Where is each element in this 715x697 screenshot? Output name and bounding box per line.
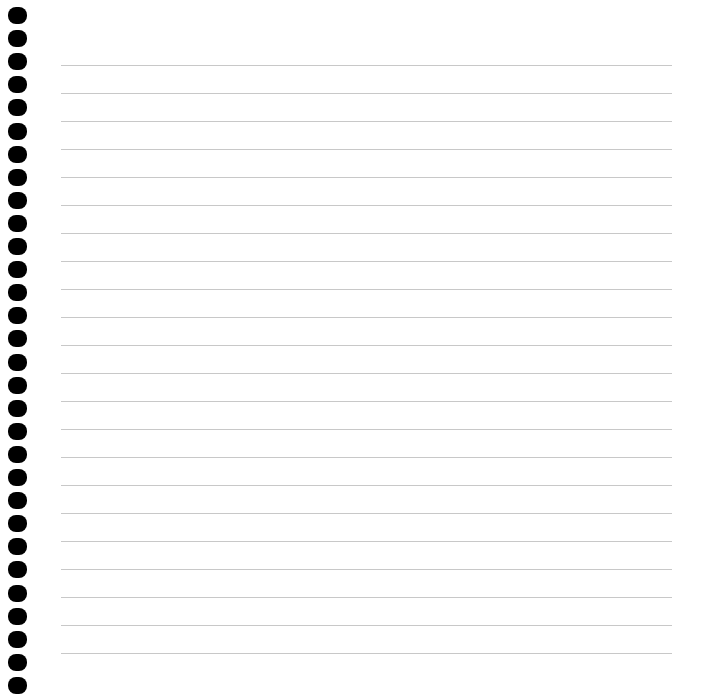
ruled-line bbox=[61, 121, 672, 122]
ruled-lines bbox=[0, 0, 715, 697]
ruled-line bbox=[61, 149, 672, 150]
ruled-line bbox=[61, 569, 672, 570]
ruled-line bbox=[61, 429, 672, 430]
ruled-line bbox=[61, 541, 672, 542]
ruled-line bbox=[61, 233, 672, 234]
ruled-line bbox=[61, 597, 672, 598]
ruled-line bbox=[61, 653, 672, 654]
ruled-line bbox=[61, 205, 672, 206]
ruled-line bbox=[61, 65, 672, 66]
ruled-line bbox=[61, 401, 672, 402]
ruled-line bbox=[61, 93, 672, 94]
ruled-line bbox=[61, 317, 672, 318]
ruled-line bbox=[61, 177, 672, 178]
ruled-line bbox=[61, 345, 672, 346]
ruled-line bbox=[61, 261, 672, 262]
ruled-line bbox=[61, 625, 672, 626]
ruled-line bbox=[61, 513, 672, 514]
ruled-line bbox=[61, 485, 672, 486]
ruled-line bbox=[61, 457, 672, 458]
ruled-line bbox=[61, 373, 672, 374]
ruled-line bbox=[61, 289, 672, 290]
